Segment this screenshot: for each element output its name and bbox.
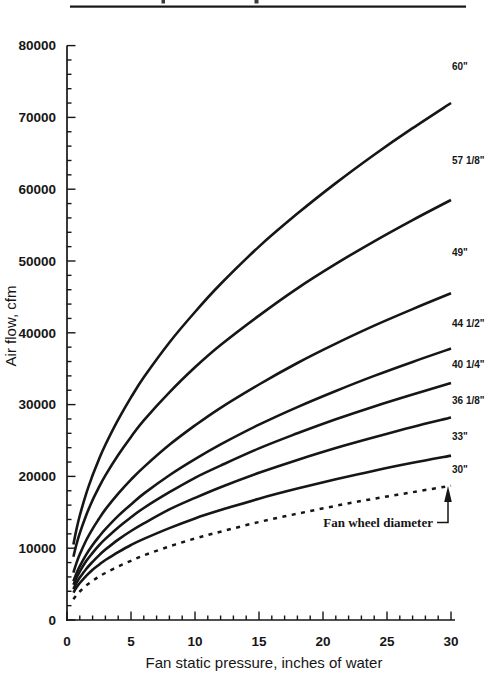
curve-label-33: 33" [452, 431, 468, 442]
fan-wheel-diameter-annotation: Fan wheel diameter [323, 486, 452, 530]
x-tick-label: 20 [315, 634, 330, 649]
curve-57-1-8-diameter [73, 200, 451, 557]
x-tick-label: 10 [187, 634, 202, 649]
curve-label-57-1-8: 57 1/8" [452, 155, 485, 166]
curve-label-44-1-2: 44 1/2" [452, 318, 485, 329]
curve-30-diameter [73, 486, 451, 600]
y-axis-title: Air flow, cfm [2, 286, 19, 367]
curve-label-30: 30" [452, 464, 468, 475]
y-tick-labels: 0100002000030000400005000060000700008000… [18, 38, 56, 627]
x-tick-labels: 051015202530 [63, 634, 458, 649]
x-tick-label: 25 [379, 634, 395, 649]
curve-label-36-1-8: 36 1/8" [452, 395, 485, 406]
curve-label-60: 60" [452, 61, 468, 72]
x-axis-title: Fan static pressure, inches of water [146, 654, 383, 671]
y-tick-label: 30000 [18, 397, 56, 412]
curve-40-1-4-diameter [73, 383, 451, 585]
y-tick-label: 0 [48, 613, 56, 628]
y-tick-label: 80000 [18, 38, 56, 53]
cropped-text-remnant [162, 0, 166, 4]
fan-performance-chart: 0100002000030000400005000060000700008000… [0, 0, 500, 693]
y-tick-label: 60000 [18, 182, 56, 197]
x-tick-label: 0 [63, 634, 71, 649]
y-tick-label: 50000 [18, 254, 56, 269]
curve-36-1-8-diameter [73, 418, 451, 590]
x-tick-label: 5 [127, 634, 135, 649]
y-tick-label: 40000 [18, 326, 56, 341]
curve-60-diameter [73, 103, 451, 545]
x-tick-label: 30 [443, 634, 458, 649]
curve-label-49: 49" [452, 247, 468, 258]
y-tick-label: 70000 [18, 110, 56, 125]
y-tick-label: 10000 [18, 541, 56, 556]
fan-performance-figure: 0100002000030000400005000060000700008000… [0, 0, 500, 693]
up-arrow-icon [444, 486, 452, 502]
x-tick-label: 15 [251, 634, 267, 649]
y-tick-label: 20000 [18, 469, 56, 484]
curve-label-40-1-4: 40 1/4" [452, 359, 485, 370]
annotation-leader-line [437, 500, 448, 523]
top-rule [70, 6, 466, 8]
cropped-text-remnant [255, 0, 259, 4]
curve-labels: 60"57 1/8"49"44 1/2"40 1/4"36 1/8"33"30" [452, 61, 485, 475]
annotation-label: Fan wheel diameter [323, 515, 433, 530]
